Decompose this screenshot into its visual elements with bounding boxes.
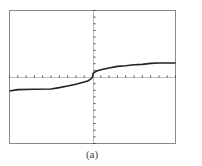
graph-plot — [0, 0, 202, 166]
figure-caption: (a) — [0, 148, 184, 160]
